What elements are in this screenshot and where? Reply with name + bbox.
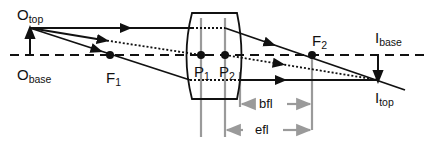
label-efl: efl	[255, 122, 269, 137]
label-object-top: Otop	[17, 6, 43, 25]
label-principal-2: P2	[219, 63, 235, 82]
reference-guides	[201, 18, 312, 137]
label-focal-1: F1	[106, 69, 121, 88]
focal-point-2	[308, 51, 316, 59]
label-bfl: bfl	[259, 96, 273, 111]
label-object-base: Obase	[17, 66, 52, 85]
principal-point-2	[221, 51, 229, 59]
thick-lens-diagram: Otop Obase F1 P1 P2 F2 Ibase Itop bfl ef…	[0, 0, 431, 147]
label-image-top: Itop	[375, 89, 394, 108]
focal-point-1	[106, 51, 114, 59]
principal-point-1	[197, 51, 205, 59]
label-principal-1: P1	[194, 63, 210, 82]
label-focal-2: F2	[312, 32, 327, 51]
label-image-base: Ibase	[375, 29, 402, 48]
